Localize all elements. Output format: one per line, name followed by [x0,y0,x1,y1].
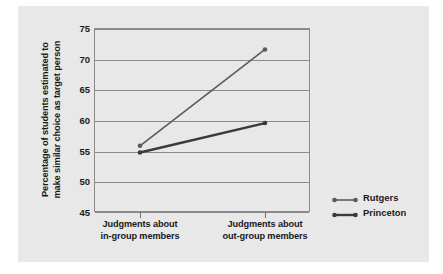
x-axis-label-in-group: Judgments about in-group members [75,219,205,242]
x-axis-tick-0 [140,212,141,218]
y-tick-label-65: 65 [68,84,90,95]
gridline-45 [95,212,309,213]
y-axis-title-line-2: make similar choice as target person [52,41,64,199]
y-tick-label-75: 75 [68,23,90,34]
legend-swatch-rutgers [332,192,358,204]
data-point-rutgers-1 [263,47,268,52]
legend-swatch-princeton [332,207,358,219]
x-axis-label-out-group-line-2: out-group members [200,231,330,243]
y-axis-title-line-1: Percentage of students estimated to [40,41,52,199]
y-tick-label-55: 55 [68,145,90,156]
x-axis-tick-1 [265,212,266,218]
y-tick-label-70: 70 [68,53,90,64]
x-axis-label-out-group-line-1: Judgments about [200,219,330,231]
legend-label-princeton: Princeton [363,207,406,218]
x-axis-label-in-group-line-1: Judgments about [75,219,205,231]
series-princeton [138,121,268,155]
legend-item-rutgers: Rutgers [332,190,428,205]
series-line-princeton [140,123,265,152]
legend-label-rutgers: Rutgers [363,192,398,203]
data-point-rutgers-0 [138,143,143,148]
y-tick-label-60: 60 [68,115,90,126]
data-series-layer [94,28,310,212]
legend-item-princeton: Princeton [332,205,428,220]
series-rutgers [138,47,268,148]
data-point-princeton-1 [263,121,268,126]
series-line-rutgers [140,49,265,145]
y-tick-label-45: 45 [68,207,90,218]
y-axis-tick-labels: 75706560555045 [66,28,90,212]
x-axis-label-out-group: Judgments about out-group members [200,219,330,242]
y-tick-label-50: 50 [68,176,90,187]
data-point-princeton-0 [138,150,143,155]
legend: RutgersPrinceton [332,190,428,220]
chart-figure: Percentage of students estimated to make… [0,0,443,274]
x-axis-label-in-group-line-2: in-group members [75,231,205,243]
